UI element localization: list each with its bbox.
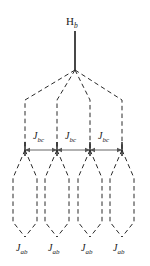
- level1-nodes: [25, 142, 122, 156]
- jab-label-4-subscript: ab: [117, 248, 124, 256]
- jab-label-2: Jab: [48, 243, 59, 256]
- jab-label-1-subscript: ab: [20, 248, 27, 256]
- jab-label-3-subscript: ab: [85, 248, 92, 256]
- top-label-hb: Hb: [66, 16, 78, 30]
- jbc-label-1-subscript: bc: [37, 136, 44, 144]
- jab-label-1: Jab: [16, 243, 27, 256]
- top-label-subscript: b: [74, 21, 78, 30]
- jbc-label-2: Jbc: [65, 131, 76, 144]
- level2-branches: [13, 150, 134, 237]
- jab-label-2-subscript: ab: [52, 248, 59, 256]
- jbc-label-3-subscript: bc: [102, 136, 109, 144]
- jbc-label-3: Jbc: [98, 131, 109, 144]
- jab-label-4: Jab: [113, 243, 124, 256]
- splitting-tree-figure: Hb Jbc Jbc Jbc Jab Jab Jab Jab: [0, 0, 150, 266]
- jbc-label-1: Jbc: [33, 131, 44, 144]
- top-label-base: H: [66, 15, 74, 27]
- jab-label-3: Jab: [81, 243, 92, 256]
- jbc-label-2-subscript: bc: [69, 136, 76, 144]
